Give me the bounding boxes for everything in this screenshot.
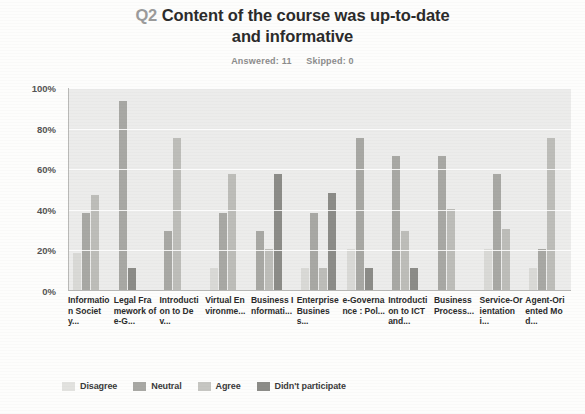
- y-axis-tick: 20%: [37, 245, 56, 256]
- y-axis-tick: 80%: [37, 123, 56, 134]
- bar-group: [206, 88, 252, 290]
- page-title: Q2 Content of the course was up-to-date: [0, 5, 585, 26]
- gridline: [69, 129, 571, 130]
- x-axis-label: Enterprise Business...: [297, 295, 343, 327]
- bar[interactable]: [82, 213, 90, 290]
- bar-group: [525, 88, 571, 290]
- legend-swatch: [198, 382, 211, 391]
- gridline: [69, 88, 571, 89]
- bar-group: [252, 88, 298, 290]
- bar-group: [434, 88, 480, 290]
- bar[interactable]: [484, 249, 492, 290]
- survey-chart-card: Q2 Content of the course was up-to-date …: [0, 0, 585, 414]
- x-axis-label: e-Governance : Pol...: [342, 295, 388, 327]
- bar[interactable]: [228, 174, 236, 290]
- answered-count: Answered: 11: [231, 56, 291, 66]
- legend-item[interactable]: Disagree: [62, 381, 117, 391]
- bar-group: [160, 88, 206, 290]
- bar[interactable]: [319, 268, 327, 290]
- bar-group: [115, 88, 161, 290]
- x-axis-label: Legal Framework of e-G...: [114, 295, 160, 327]
- bar-group: [388, 88, 434, 290]
- bar[interactable]: [502, 229, 510, 290]
- legend-label: Agree: [216, 381, 241, 391]
- x-axis-label: Information Societ y...: [68, 295, 114, 327]
- x-axis-label: Service-Orientation i...: [480, 295, 526, 327]
- y-axis: 100%80%60%40%20%0%: [0, 88, 62, 293]
- question-number: Q2: [135, 6, 157, 24]
- bar-group: [480, 88, 526, 290]
- gridline: [69, 210, 571, 211]
- legend-swatch: [133, 382, 146, 391]
- legend-item[interactable]: Agree: [198, 381, 241, 391]
- x-axis-label: Business Process...: [434, 295, 480, 327]
- y-axis-tick: 40%: [37, 204, 56, 215]
- bar[interactable]: [328, 193, 336, 290]
- bar[interactable]: [392, 156, 400, 290]
- bar[interactable]: [365, 268, 373, 290]
- gridline: [69, 169, 571, 170]
- bar[interactable]: [547, 138, 555, 290]
- bar-group: [69, 88, 115, 290]
- bar[interactable]: [265, 249, 273, 290]
- bar[interactable]: [128, 268, 136, 290]
- bar[interactable]: [538, 249, 546, 290]
- response-summary: Answered: 11 Skipped: 0: [0, 56, 585, 66]
- bar[interactable]: [529, 268, 537, 290]
- bar[interactable]: [438, 156, 446, 290]
- y-axis-tick: 0%: [42, 286, 56, 297]
- legend-swatch: [62, 382, 75, 391]
- bar[interactable]: [164, 231, 172, 290]
- bar-groups: [69, 88, 571, 290]
- bar-group: [343, 88, 389, 290]
- bar[interactable]: [301, 268, 309, 290]
- gridline: [69, 250, 571, 251]
- bar[interactable]: [347, 249, 355, 290]
- chart-legend: DisagreeNeutralAgreeDidn't participate: [62, 381, 585, 391]
- bar[interactable]: [493, 174, 501, 290]
- y-axis-tick: 60%: [37, 164, 56, 175]
- legend-label: Disagree: [80, 381, 117, 391]
- bar[interactable]: [210, 268, 218, 290]
- plot-wrapper: 100%80%60%40%20%0%: [0, 88, 585, 293]
- bar[interactable]: [310, 213, 318, 290]
- x-axis-label: Business Informati...: [251, 295, 297, 327]
- x-axis-labels: Information Societ y...Legal Framework o…: [68, 295, 571, 327]
- skipped-count: Skipped: 0: [306, 56, 354, 66]
- y-axis-tick: 100%: [32, 83, 56, 94]
- x-axis-label: Agent-Oriented Mod...: [525, 295, 571, 327]
- title-line-1: Content of the course was up-to-date: [162, 6, 450, 24]
- bar[interactable]: [73, 253, 81, 290]
- plot-area: [68, 88, 571, 291]
- bar[interactable]: [401, 231, 409, 290]
- chart-title-block: Q2 Content of the course was up-to-date …: [0, 0, 585, 66]
- title-line-2: and informative: [0, 26, 585, 47]
- legend-label: Neutral: [151, 381, 181, 391]
- x-axis-label: Introduction to ICT and...: [388, 295, 434, 327]
- bar[interactable]: [356, 138, 364, 290]
- x-axis-label: Introduction to Dev...: [159, 295, 205, 327]
- legend-item[interactable]: Neutral: [133, 381, 181, 391]
- legend-item[interactable]: Didn't participate: [257, 381, 346, 391]
- bar[interactable]: [219, 213, 227, 290]
- bar[interactable]: [410, 268, 418, 290]
- bar[interactable]: [173, 138, 181, 290]
- bar[interactable]: [274, 174, 282, 290]
- bar-group: [297, 88, 343, 290]
- x-axis-label: Virtual Environme...: [205, 295, 251, 327]
- bar[interactable]: [256, 231, 264, 290]
- legend-swatch: [257, 382, 270, 391]
- legend-label: Didn't participate: [275, 381, 346, 391]
